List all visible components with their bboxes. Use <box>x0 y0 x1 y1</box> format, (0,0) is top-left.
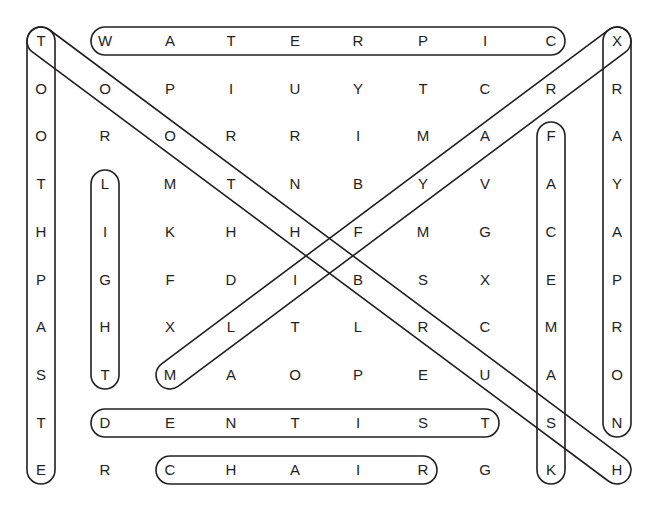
grid-letter[interactable]: R <box>280 124 310 148</box>
grid-letter[interactable]: N <box>216 411 246 435</box>
grid-letter[interactable]: T <box>26 172 56 196</box>
grid-letter[interactable]: X <box>602 29 632 53</box>
grid-letter[interactable]: A <box>602 220 632 244</box>
grid-letter[interactable]: D <box>216 268 246 292</box>
grid-letter[interactable]: A <box>216 363 246 387</box>
grid-letter[interactable]: O <box>26 124 56 148</box>
grid-letter[interactable]: U <box>470 363 500 387</box>
grid-letter[interactable]: T <box>26 29 56 53</box>
grid-letter[interactable]: P <box>343 363 373 387</box>
grid-letter[interactable]: G <box>90 268 120 292</box>
grid-letter[interactable]: E <box>536 268 566 292</box>
grid-letter[interactable]: M <box>408 124 438 148</box>
grid-letter[interactable]: B <box>343 172 373 196</box>
grid-letter[interactable]: L <box>90 172 120 196</box>
grid-letter[interactable]: K <box>155 220 185 244</box>
grid-letter[interactable]: H <box>280 220 310 244</box>
grid-letter[interactable]: N <box>280 172 310 196</box>
grid-letter[interactable]: T <box>26 411 56 435</box>
grid-letter[interactable]: T <box>90 363 120 387</box>
grid-letter[interactable]: Y <box>602 172 632 196</box>
grid-letter[interactable]: M <box>408 220 438 244</box>
grid-letter[interactable]: F <box>155 268 185 292</box>
grid-letter[interactable]: S <box>408 268 438 292</box>
grid-letter[interactable]: A <box>155 29 185 53</box>
grid-letter[interactable]: P <box>26 268 56 292</box>
grid-letter[interactable]: Y <box>408 172 438 196</box>
grid-letter[interactable]: T <box>470 411 500 435</box>
grid-letter[interactable]: R <box>90 458 120 482</box>
grid-letter[interactable]: S <box>536 411 566 435</box>
grid-letter[interactable]: H <box>216 220 246 244</box>
grid-letter[interactable]: I <box>343 411 373 435</box>
grid-letter[interactable]: O <box>602 363 632 387</box>
grid-letter[interactable]: P <box>408 29 438 53</box>
grid-letter[interactable]: S <box>408 411 438 435</box>
grid-letter[interactable]: M <box>536 315 566 339</box>
grid-letter[interactable]: T <box>216 29 246 53</box>
grid-letter[interactable]: F <box>343 220 373 244</box>
grid-letter[interactable]: R <box>602 315 632 339</box>
grid-letter[interactable]: G <box>470 458 500 482</box>
grid-letter[interactable]: R <box>602 77 632 101</box>
grid-letter[interactable]: O <box>90 77 120 101</box>
grid-letter[interactable]: I <box>90 220 120 244</box>
grid-letter[interactable]: H <box>90 315 120 339</box>
grid-letter[interactable]: B <box>343 268 373 292</box>
grid-letter[interactable]: C <box>470 315 500 339</box>
grid-letter[interactable]: E <box>280 29 310 53</box>
grid-letter[interactable]: C <box>470 77 500 101</box>
grid-letter[interactable]: E <box>26 458 56 482</box>
grid-letter[interactable]: A <box>280 458 310 482</box>
grid-letter[interactable]: L <box>216 315 246 339</box>
grid-letter[interactable]: W <box>90 29 120 53</box>
grid-letter[interactable]: S <box>26 363 56 387</box>
grid-letter[interactable]: C <box>155 458 185 482</box>
grid-letter[interactable]: M <box>155 363 185 387</box>
grid-letter[interactable]: R <box>536 77 566 101</box>
grid-letter[interactable]: U <box>280 77 310 101</box>
grid-letter[interactable]: O <box>26 77 56 101</box>
grid-letter[interactable]: H <box>26 220 56 244</box>
grid-letter[interactable]: X <box>155 315 185 339</box>
grid-letter[interactable]: A <box>602 124 632 148</box>
grid-letter[interactable]: X <box>470 268 500 292</box>
grid-letter[interactable]: A <box>26 315 56 339</box>
grid-letter[interactable]: O <box>155 124 185 148</box>
grid-letter[interactable]: I <box>343 124 373 148</box>
grid-letter[interactable]: R <box>343 29 373 53</box>
grid-letter[interactable]: H <box>216 458 246 482</box>
grid-letter[interactable]: C <box>536 29 566 53</box>
grid-letter[interactable]: T <box>216 172 246 196</box>
grid-letter[interactable]: D <box>90 411 120 435</box>
grid-letter[interactable]: F <box>536 124 566 148</box>
grid-letter[interactable]: A <box>536 363 566 387</box>
grid-letter[interactable]: C <box>536 220 566 244</box>
grid-letter[interactable]: Y <box>343 77 373 101</box>
grid-letter[interactable]: R <box>408 315 438 339</box>
grid-letter[interactable]: P <box>155 77 185 101</box>
grid-letter[interactable]: P <box>602 268 632 292</box>
grid-letter[interactable]: N <box>602 411 632 435</box>
grid-letter[interactable]: E <box>408 363 438 387</box>
grid-letter[interactable]: I <box>470 29 500 53</box>
grid-letter[interactable]: V <box>470 172 500 196</box>
grid-letter[interactable]: I <box>343 458 373 482</box>
grid-letter[interactable]: A <box>536 172 566 196</box>
grid-letter[interactable]: I <box>280 268 310 292</box>
grid-letter[interactable]: E <box>155 411 185 435</box>
grid-letter[interactable]: A <box>470 124 500 148</box>
grid-letter[interactable]: H <box>602 458 632 482</box>
grid-letter[interactable]: T <box>280 315 310 339</box>
grid-letter[interactable]: M <box>155 172 185 196</box>
grid-letter[interactable]: K <box>536 458 566 482</box>
grid-letter[interactable]: R <box>90 124 120 148</box>
grid-letter[interactable]: T <box>408 77 438 101</box>
grid-letter[interactable]: R <box>216 124 246 148</box>
grid-letter[interactable]: T <box>280 411 310 435</box>
grid-letter[interactable]: O <box>280 363 310 387</box>
grid-letter[interactable]: G <box>470 220 500 244</box>
grid-letter[interactable]: I <box>216 77 246 101</box>
grid-letter[interactable]: R <box>408 458 438 482</box>
grid-letter[interactable]: L <box>343 315 373 339</box>
